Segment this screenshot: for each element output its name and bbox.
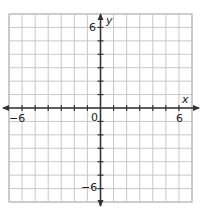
y-tick-label-6: 6 — [89, 22, 96, 33]
y-axis-label: y — [106, 15, 113, 26]
x-tick-label-6: 6 — [176, 113, 183, 124]
y-axis-down-arrow-icon — [98, 200, 104, 207]
y-tick-label-neg6: −6 — [81, 182, 97, 193]
coordinate-grid — [0, 0, 202, 209]
x-tick-label-neg6: −6 — [9, 113, 25, 124]
x-axis-right-arrow-icon — [193, 105, 200, 111]
x-axis-label: x — [182, 94, 189, 105]
x-axis-left-arrow-icon — [2, 105, 9, 111]
origin-label: 0 — [91, 112, 98, 123]
